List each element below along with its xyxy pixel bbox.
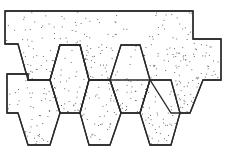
stipple-layer — [5, 11, 222, 146]
shingle-diagram — [0, 0, 229, 159]
shingle-drawing — [0, 0, 229, 159]
